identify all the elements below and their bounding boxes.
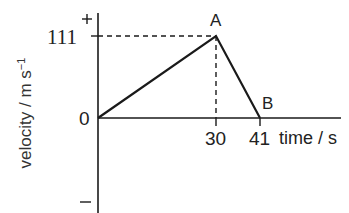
velocity-time-graph: 111 0 A B 30 41 time / s velocity / m s−… [0,0,349,213]
y-tick-label-0: 0 [79,109,90,128]
point-label-a: A [210,12,221,29]
y-axis-label-exponent: −1 [15,58,27,71]
y-tick-label-111: 111 [47,27,77,48]
x-tick-label-30: 30 [205,129,226,148]
x-tick-label-41: 41 [249,129,270,148]
point-label-b: B [262,95,273,112]
velocity-line [98,36,260,118]
y-axis-label: velocity / m s−1 [15,58,36,169]
x-axis-label: time / s [279,129,337,147]
y-axis-label-text: velocity / m s [16,70,35,168]
plus-marker [82,14,92,24]
